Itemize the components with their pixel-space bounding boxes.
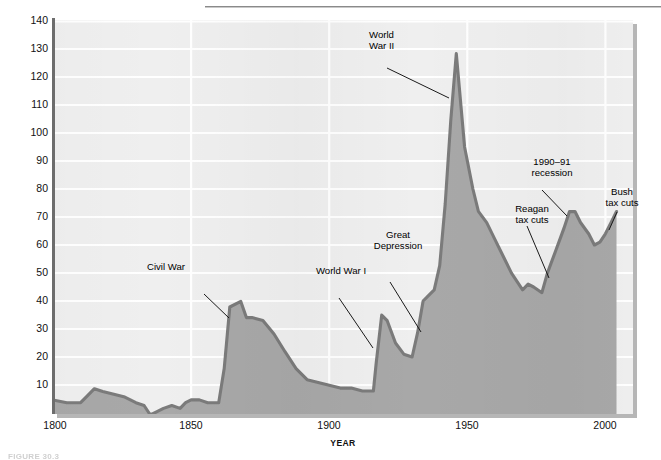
debt-area-fill	[53, 54, 617, 414]
annotation-1990-91-recession: 1990–91recession	[519, 156, 585, 178]
annotation-reagan-tax-cuts: Reagantax cuts	[503, 203, 561, 225]
annotation-great-depression: GreatDepression	[362, 229, 434, 251]
y-tick-label-20: 20	[18, 351, 48, 362]
y-tick-label-140: 140	[18, 15, 48, 26]
y-tick-label-100: 100	[18, 127, 48, 138]
leader-line-world-war-2	[387, 68, 449, 98]
y-tick-label-90: 90	[18, 155, 48, 166]
x-tick-label-1800: 1800	[32, 420, 78, 431]
x-tick-label-2000: 2000	[582, 420, 628, 431]
x-axis-title: YEAR	[53, 438, 633, 448]
y-tick-label-40: 40	[18, 295, 48, 306]
leader-line-reagan	[527, 226, 549, 278]
x-tick-label-1900: 1900	[306, 420, 352, 431]
y-axis-spine	[52, 18, 55, 414]
annotation-bush-tax-cuts: Bushtax cuts	[594, 186, 650, 208]
y-tick-label-120: 120	[18, 71, 48, 82]
y-tick-label-110: 110	[18, 99, 48, 110]
y-tick-label-60: 60	[18, 239, 48, 250]
x-tick-label-1850: 1850	[168, 420, 214, 431]
y-tick-label-50: 50	[18, 267, 48, 278]
figure-caption-partial: FIGURE 30.3	[8, 452, 59, 460]
annotation-world-war-2: WorldWar II	[369, 29, 429, 51]
y-tick-label-10: 10	[18, 379, 48, 390]
annotation-civil-war: Civil War	[133, 261, 199, 272]
leader-line-civil-war	[204, 294, 229, 318]
y-tick-label-130: 130	[18, 43, 48, 54]
y-tick-label-30: 30	[18, 323, 48, 334]
y-tick-label-70: 70	[18, 211, 48, 222]
x-tick-label-1950: 1950	[444, 420, 490, 431]
leader-line-great-depression	[390, 282, 421, 332]
y-tick-label-80: 80	[18, 183, 48, 194]
annotation-world-war-1: World War I	[299, 265, 383, 276]
debt-gdp-area-chart: RELATIVE SIZE OF THE DEBT (as a percenta…	[0, 0, 661, 460]
leader-line-world-war-1	[339, 298, 373, 348]
